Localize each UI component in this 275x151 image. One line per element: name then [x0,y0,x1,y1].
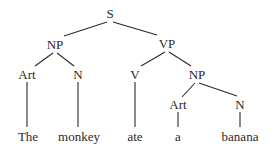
word-monkey: monkey [58,129,100,144]
edge-np2-art [182,83,195,97]
node-n-object: N [235,97,245,112]
node-art-subject: Art [18,67,36,82]
edge-np2-n [199,83,237,96]
tree-words: The monkey ate a banana [18,129,259,144]
node-art-object: Art [169,97,187,112]
tree-nodes: S NP VP Art N V NP Art N [18,6,245,112]
node-np-subject: NP [47,37,64,52]
edge-np-art [35,53,53,66]
edge-vp-np [169,52,191,66]
word-ate: ate [127,129,142,144]
word-banana: banana [222,129,259,144]
node-v: V [130,67,140,82]
edge-s-vp [113,22,157,35]
node-s: S [106,6,113,21]
syntax-tree: S NP VP Art N V NP Art N The monkey ate … [0,0,275,151]
node-n-subject: N [73,67,83,82]
word-the: The [18,129,38,144]
word-a: a [175,129,181,144]
node-vp: VP [159,36,176,51]
edge-np-n [57,53,74,66]
edge-vp-v [141,52,165,66]
edge-s-np [64,22,107,36]
node-np-object: NP [189,67,206,82]
